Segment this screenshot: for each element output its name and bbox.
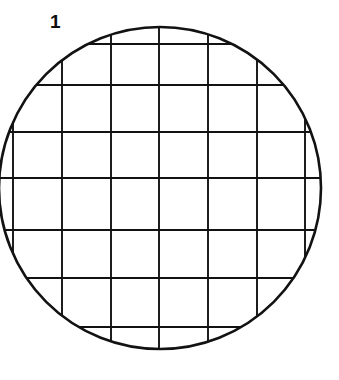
- figure-background: [0, 0, 339, 380]
- figure-panel: 1: [0, 0, 339, 380]
- figure-number-label: 1: [50, 11, 61, 33]
- circle-grid-figure: [0, 0, 339, 380]
